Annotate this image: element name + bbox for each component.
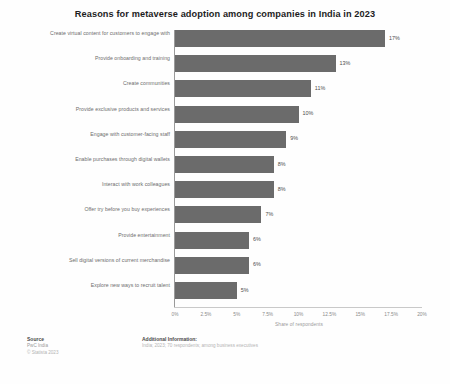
- bar-fill: [175, 131, 286, 148]
- category-label: Explore new ways to recruit talent: [24, 282, 170, 289]
- x-tick-label: 2.5%: [200, 312, 211, 317]
- category-label: Sell digital versions of current merchan…: [24, 257, 170, 264]
- bar[interactable]: [175, 282, 237, 299]
- x-tick-label: 0%: [172, 312, 179, 317]
- source-heading: Source: [27, 336, 137, 343]
- category-label: Create virtual content for customers to …: [24, 30, 170, 37]
- category-label: Engage with customer-facing staff: [24, 131, 170, 138]
- bar[interactable]: [175, 156, 274, 173]
- bar-row: Create virtual content for customers to …: [20, 30, 424, 55]
- bar[interactable]: [175, 80, 311, 97]
- bar[interactable]: [175, 257, 249, 274]
- category-label: Provide onboarding and training: [24, 55, 170, 62]
- bar-value-label: 17%: [389, 35, 400, 41]
- bar-value-label: 11%: [315, 85, 325, 91]
- bar-fill: [175, 55, 336, 72]
- category-label: Offer try before you buy experiences: [24, 206, 170, 213]
- bar-value-label: 7%: [265, 211, 273, 217]
- bar-rows: Create virtual content for customers to …: [20, 30, 424, 307]
- bar-value-label: 8%: [278, 161, 286, 167]
- bar-row: Enable purchases through digital wallets…: [20, 156, 424, 181]
- bar-value-label: 6%: [253, 261, 261, 267]
- bar-row: Engage with customer-facing staff9%: [20, 131, 424, 156]
- x-tick-label: 7.5%: [262, 312, 273, 317]
- bar-fill: [175, 232, 249, 249]
- additional-info-block: Additional Information: India; 2023; 70 …: [142, 336, 342, 350]
- source-block: Source PwC India © Statista 2023: [27, 336, 137, 356]
- source-line-1: PwC India: [27, 343, 137, 350]
- source-line-2: © Statista 2023: [27, 350, 137, 357]
- bar-fill: [175, 206, 261, 223]
- bar[interactable]: [175, 206, 261, 223]
- bar[interactable]: [175, 106, 299, 123]
- additional-info-line-1: India; 2023; 70 respondents; among busin…: [142, 343, 342, 350]
- additional-info-heading: Additional Information:: [142, 336, 342, 343]
- category-label: Enable purchases through digital wallets: [24, 156, 170, 163]
- bar-row: Provide entertainment6%: [20, 232, 424, 257]
- chart-title: Reasons for metaverse adoption among com…: [0, 8, 450, 20]
- bar-row: Provide exclusive products and services1…: [20, 106, 424, 131]
- x-tick-label: 17.5%: [384, 312, 398, 317]
- bar-fill: [175, 106, 299, 123]
- plot-area: Create virtual content for customers to …: [20, 30, 424, 310]
- bar-value-label: 6%: [253, 236, 261, 242]
- bar-value-label: 5%: [241, 287, 249, 293]
- bar-fill: [175, 282, 237, 299]
- bar-row: Offer try before you buy experiences7%: [20, 206, 424, 231]
- bar[interactable]: [175, 131, 286, 148]
- category-label: Provide entertainment: [24, 232, 170, 239]
- x-tick-label: 5%: [233, 312, 240, 317]
- bar[interactable]: [175, 30, 385, 47]
- chart-footer: Source PwC India © Statista 2023 Additio…: [0, 336, 450, 382]
- bar-fill: [175, 30, 385, 47]
- bar[interactable]: [175, 232, 249, 249]
- bar-row: Sell digital versions of current merchan…: [20, 257, 424, 282]
- bar[interactable]: [175, 181, 274, 198]
- category-label: Provide exclusive products and services: [24, 106, 170, 113]
- bar-row: Explore new ways to recruit talent5%: [20, 282, 424, 307]
- x-axis-title: Share of respondents: [175, 322, 423, 327]
- bar-value-label: 13%: [340, 60, 351, 66]
- x-tick-label: 20%: [417, 312, 427, 317]
- x-tick-label: 15%: [355, 312, 365, 317]
- bar-row: Provide onboarding and training13%: [20, 55, 424, 80]
- bar-value-label: 9%: [290, 135, 298, 141]
- category-label: Interact with work colleagues: [24, 181, 170, 188]
- bar-fill: [175, 257, 249, 274]
- bar-value-label: 10%: [303, 110, 314, 116]
- bar[interactable]: [175, 55, 336, 72]
- bar-row: Interact with work colleagues8%: [20, 181, 424, 206]
- category-label: Create communities: [24, 80, 170, 87]
- x-tick-label: 12.5%: [323, 312, 337, 317]
- x-axis-ticks: 0%2.5%5%7.5%10%12.5%15%17.5%20%: [20, 312, 424, 322]
- bar-fill: [175, 80, 311, 97]
- chart-page: Reasons for metaverse adoption among com…: [0, 0, 450, 384]
- bar-value-label: 8%: [278, 186, 286, 192]
- bar-fill: [175, 156, 274, 173]
- bar-row: Create communities11%: [20, 80, 424, 105]
- x-tick-label: 10%: [294, 312, 304, 317]
- bar-fill: [175, 181, 274, 198]
